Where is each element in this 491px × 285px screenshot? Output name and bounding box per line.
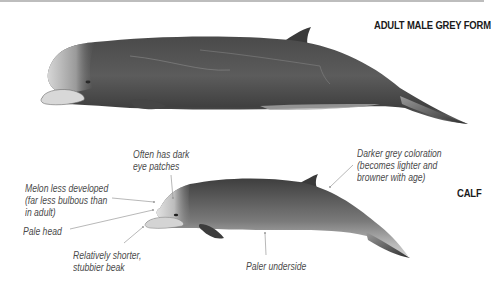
melon-label: Melon less developed (far less bulbous t… xyxy=(25,183,108,219)
adult-male-grey-form-title: ADULT MALE GREY FORM xyxy=(374,19,491,31)
eye-patches-label: Often has dark eye patches xyxy=(133,149,189,173)
paler-underside-label: Paler underside xyxy=(246,261,306,273)
calf-title: CALF xyxy=(457,187,481,199)
calf-whale xyxy=(145,174,410,258)
beak-label: Relatively shorter, stubbier beak xyxy=(73,250,141,274)
pale-head-label: Pale head xyxy=(23,226,62,238)
adult-whale xyxy=(41,27,468,124)
darker-coloration-label: Darker grey coloration (becomes lighter … xyxy=(357,148,442,184)
